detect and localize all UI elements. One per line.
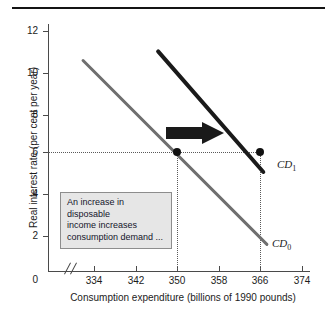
curve-label-cd0-text: CD — [272, 237, 287, 249]
guide-vline-350 — [177, 152, 178, 271]
equilibrium-point-cd1 — [256, 148, 264, 156]
y-tick-10 — [43, 73, 49, 74]
guide-hline-6 — [48, 152, 262, 153]
y-axis-line — [48, 24, 49, 272]
x-axis-break-icon — [64, 262, 80, 274]
curve-label-cd1: CD1 — [277, 158, 296, 173]
y-tick-label-12: 12 — [12, 26, 38, 36]
y-tick-2 — [43, 236, 49, 237]
x-tick-358 — [219, 266, 220, 272]
x-tick-label-366: 366 — [244, 275, 276, 286]
x-tick-label-374: 374 — [286, 275, 318, 286]
curve-label-cd1-sub: 1 — [292, 164, 296, 173]
top-rule-divider — [12, 7, 325, 9]
y-tick-12 — [43, 31, 49, 32]
shift-arrow-icon — [166, 122, 224, 146]
annotation-line-1: An increase in disposable — [67, 197, 166, 220]
curve-label-cd0-sub: 0 — [287, 243, 291, 252]
x-tick-label-342: 342 — [120, 275, 152, 286]
annotation-line-3: consumption demand ... — [67, 232, 166, 244]
y-tick-4 — [43, 194, 49, 195]
curve-label-cd1-text: CD — [277, 158, 292, 170]
x-tick-label-358: 358 — [203, 275, 235, 286]
x-tick-label-334: 334 — [78, 275, 110, 286]
annotation-line-2: income increases — [67, 220, 166, 232]
equilibrium-point-cd0 — [173, 148, 181, 156]
x-axis-line — [48, 271, 310, 272]
chart-figure: 12 10 8 6 4 2 0 334 342 350 358 366 374 … — [0, 0, 331, 318]
x-tick-342 — [136, 266, 137, 272]
x-tick-334 — [94, 266, 95, 272]
curve-cd1 — [156, 49, 266, 175]
annotation-note-box: An increase in disposable income increas… — [60, 192, 172, 249]
curve-label-cd0: CD0 — [272, 237, 291, 252]
x-tick-label-350: 350 — [161, 275, 193, 286]
y-axis-title: Real interest rate (per cent per year) — [28, 43, 39, 253]
y-tick-8 — [43, 115, 49, 116]
x-tick-374 — [302, 266, 303, 272]
y-tick-label-0: 0 — [12, 275, 38, 285]
x-axis-title: Consumption expenditure (billions of 199… — [48, 292, 318, 303]
